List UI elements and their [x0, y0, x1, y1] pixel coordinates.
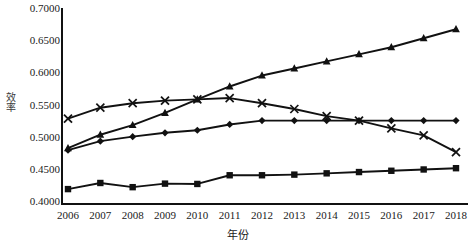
data-point-square — [323, 170, 329, 176]
x-tick-label: 2007 — [89, 208, 111, 222]
y-tick-label: 0.7000 — [12, 3, 60, 14]
series-canvas — [62, 6, 468, 203]
series-cross — [64, 94, 460, 156]
data-point-square — [97, 180, 103, 186]
x-tick-label: 2010 — [186, 208, 208, 222]
y-tick-label: 0.4500 — [12, 163, 60, 174]
data-point-diamond — [258, 117, 265, 124]
x-axis-line — [61, 203, 468, 205]
x-tick-label: 2016 — [380, 208, 402, 222]
y-tick-label: 0.6500 — [12, 35, 60, 46]
y-tick-label: 0.5500 — [12, 99, 60, 110]
x-tick-label: 2011 — [219, 208, 241, 222]
data-point-diamond — [291, 117, 298, 124]
y-axis-tick-labels: 0.40000.45000.50000.55000.60000.65000.70… — [12, 0, 60, 244]
data-point-diamond — [420, 117, 427, 124]
y-tick-label: 0.6000 — [12, 67, 60, 78]
x-tick-label: 2009 — [154, 208, 176, 222]
data-point-cross — [452, 148, 460, 156]
plot-area — [62, 6, 468, 203]
x-tick-label: 2008 — [122, 208, 144, 222]
y-tick-label: 0.4000 — [12, 196, 60, 207]
x-tick-label: 2017 — [413, 208, 435, 222]
series-diamond — [64, 117, 459, 154]
data-point-diamond — [161, 129, 168, 136]
data-point-triangle — [452, 25, 460, 32]
series-line — [68, 98, 456, 152]
series-line — [68, 121, 456, 151]
chart-container: 效率 0.40000.45000.50000.55000.60000.65000… — [0, 0, 475, 244]
data-point-square — [226, 172, 232, 178]
data-point-square — [129, 184, 135, 190]
data-point-square — [291, 171, 297, 177]
data-point-diamond — [388, 117, 395, 124]
data-point-square — [162, 180, 168, 186]
data-point-square — [65, 186, 71, 192]
data-point-square — [453, 165, 459, 171]
x-tick-label: 2015 — [348, 208, 370, 222]
series-square — [65, 165, 459, 192]
data-point-diamond — [194, 127, 201, 134]
series-line — [68, 168, 456, 189]
data-point-square — [388, 168, 394, 174]
x-tick-label: 2006 — [57, 208, 79, 222]
data-point-diamond — [129, 133, 136, 140]
data-point-diamond — [226, 121, 233, 128]
x-axis-label: 年份 — [0, 226, 475, 242]
y-tick-label: 0.5000 — [12, 131, 60, 142]
x-tick-label: 2012 — [251, 208, 273, 222]
data-point-square — [194, 181, 200, 187]
x-tick-label: 2013 — [283, 208, 305, 222]
series-triangle — [64, 25, 460, 151]
x-tick-label: 2014 — [316, 208, 338, 222]
data-point-diamond — [452, 117, 459, 124]
x-axis-tick-labels: 2006200720082009201020112012201320142015… — [62, 208, 468, 224]
data-point-square — [420, 166, 426, 172]
x-tick-label: 2018 — [445, 208, 467, 222]
data-point-square — [356, 169, 362, 175]
data-point-diamond — [97, 138, 104, 145]
data-point-square — [259, 172, 265, 178]
